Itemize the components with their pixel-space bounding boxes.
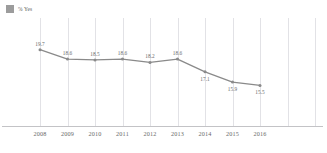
data-point-marker <box>176 58 179 61</box>
data-point-marker <box>94 58 97 61</box>
plot-area: 19.718.618.518.618.218.617.115.915.5 <box>0 18 327 126</box>
legend-swatch-icon <box>6 5 14 13</box>
data-point-marker <box>66 58 69 61</box>
x-tick-label: 2014 <box>198 130 211 138</box>
x-tick-label: 2013 <box>171 130 184 138</box>
data-label: 18.6 <box>118 50 128 56</box>
data-label: 15.9 <box>228 86 238 92</box>
series-line-percent-yes <box>0 18 327 126</box>
data-label: 17.1 <box>200 76 210 82</box>
x-tick-label: 2008 <box>33 130 46 138</box>
data-label: 18.5 <box>90 51 100 57</box>
line-chart: % Yes 19.718.618.518.618.218.617.115.915… <box>0 0 327 153</box>
data-point-marker <box>204 70 207 73</box>
x-tick-label: 2012 <box>143 130 156 138</box>
x-tick-label: 2010 <box>88 130 101 138</box>
data-point-marker <box>231 81 234 84</box>
data-label: 18.6 <box>173 50 183 56</box>
data-label: 15.5 <box>255 89 265 95</box>
legend-label: % Yes <box>18 5 32 13</box>
chart-legend: % Yes <box>6 5 32 13</box>
data-point-marker <box>149 61 152 64</box>
data-point-marker <box>259 84 262 87</box>
x-tick-label: 2009 <box>61 130 74 138</box>
x-tick-label: 2015 <box>226 130 239 138</box>
x-tick-label: 2016 <box>253 130 266 138</box>
data-point-marker <box>121 58 124 61</box>
data-point-marker <box>39 48 42 51</box>
data-label: 19.7 <box>35 41 45 47</box>
data-label: 18.6 <box>63 50 73 56</box>
x-tick-label: 2011 <box>116 130 129 138</box>
data-label: 18.2 <box>145 53 155 59</box>
x-axis-line <box>2 126 323 127</box>
